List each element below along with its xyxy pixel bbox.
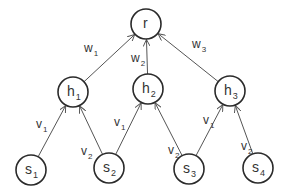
edge-h2-to-r <box>146 39 147 74</box>
edge-h3-to-r <box>158 34 218 82</box>
hierarchical-graph-diagram: w1w2w3v1v2v1v2v1v2 rh1h2h3s1s2s3s4 <box>0 0 288 195</box>
edge-label-v1: v1 <box>114 115 126 132</box>
edge-label-v1: v1 <box>203 113 215 130</box>
edge-label-w1: w1 <box>83 41 99 58</box>
arrow-line <box>146 39 147 74</box>
node-s3: s3 <box>174 154 204 184</box>
node-s1: s1 <box>16 155 46 185</box>
nodes-layer: rh1h2h3s1s2s3s4 <box>16 9 273 185</box>
arrow-line <box>158 34 218 82</box>
edge-label-v2: v2 <box>81 144 93 161</box>
node-s2: s2 <box>94 153 124 183</box>
node-label-r: r <box>143 15 148 31</box>
edge-label-v2: v2 <box>168 143 180 160</box>
arrow-line <box>196 105 223 156</box>
node-h3: h3 <box>215 76 245 106</box>
edge-label-v1: v1 <box>36 117 48 134</box>
edge-s3-to-h3 <box>196 105 223 156</box>
edge-label-w3: w3 <box>191 37 207 54</box>
node-h2: h2 <box>133 74 163 104</box>
edge-label-w2: w2 <box>130 51 146 68</box>
node-r: r <box>131 9 161 39</box>
edge-label-v2: v2 <box>241 139 253 156</box>
node-h1: h1 <box>58 77 88 107</box>
node-s4: s4 <box>243 153 273 183</box>
